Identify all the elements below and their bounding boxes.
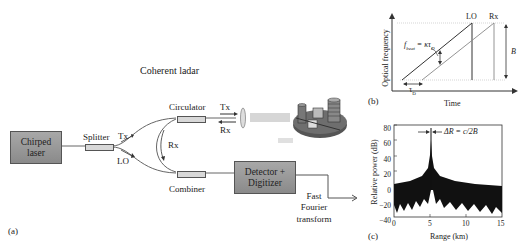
xtick-10: 10	[462, 220, 470, 228]
panel-c-label: (c)	[368, 232, 378, 241]
xtick-5: 5	[428, 220, 432, 228]
spectrum-plot	[0, 0, 527, 251]
panel-c-xlabel: Range (km)	[430, 233, 468, 241]
delta-r-annotation: ΔR = c/2B	[444, 128, 478, 136]
panel-c-ylabel: Relative power (dB)	[371, 127, 379, 217]
xtick-15: 15	[497, 220, 505, 228]
xtick-0: 0	[392, 220, 396, 228]
